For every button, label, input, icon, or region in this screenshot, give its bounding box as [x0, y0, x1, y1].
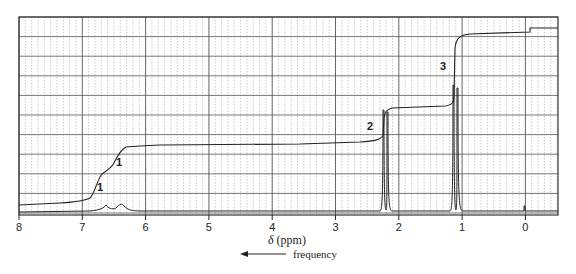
integration-label-1b: 1 — [116, 156, 122, 168]
x-axis-title: δ (ppm) — [268, 233, 306, 247]
x-tick-label: 1 — [459, 221, 465, 233]
x-tick-label: 8 — [16, 221, 22, 233]
x-tick-label: 2 — [396, 221, 402, 233]
x-tick-label: 7 — [79, 221, 85, 233]
integration-label-3: 3 — [440, 60, 446, 72]
x-tick-label: 5 — [206, 221, 212, 233]
x-tick-label: 6 — [143, 221, 149, 233]
nmr-spectrum-chart: 1 1 2 3 876543210 δ (ppm) frequency — [0, 0, 576, 274]
x-tick-label: 3 — [332, 221, 338, 233]
arrow-left-icon — [240, 251, 248, 257]
integration-label-2: 2 — [367, 120, 373, 132]
integration-curve — [19, 28, 558, 205]
integration-label-1a: 1 — [97, 181, 103, 193]
x-tick-label: 4 — [269, 221, 275, 233]
x-axis: 876543210 — [16, 215, 529, 233]
x-tick-label: 0 — [522, 221, 528, 233]
frequency-label: frequency — [293, 248, 337, 260]
frequency-arrow — [240, 251, 286, 257]
